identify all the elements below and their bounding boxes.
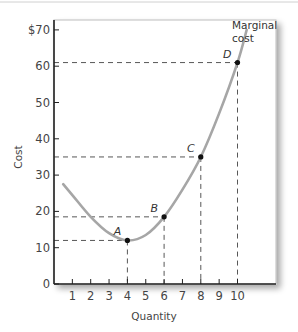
x-tick-label: 8 <box>197 289 204 303</box>
x-tick-label: 5 <box>142 289 149 303</box>
point-label-a: A <box>113 225 122 238</box>
point-a <box>125 238 130 243</box>
x-tick-label: 10 <box>230 289 245 303</box>
y-tick-label: 0 <box>43 277 50 291</box>
x-tick-label: 4 <box>124 289 131 303</box>
point-label-b: B <box>151 202 159 215</box>
y-axis-label: Cost <box>12 145 24 168</box>
point-c <box>198 154 203 159</box>
y-tick-label: 30 <box>35 168 50 182</box>
x-tick-label: 6 <box>160 289 167 303</box>
plot-frame <box>54 20 276 284</box>
y-tick-label: 60 <box>35 59 50 73</box>
y-tick-label: 50 <box>35 96 50 110</box>
y-tick-label: $70 <box>28 23 50 37</box>
y-tick-label: 10 <box>35 241 50 255</box>
y-tick-label: 20 <box>35 204 50 218</box>
point-label-d: D <box>223 48 231 61</box>
point-d <box>235 60 240 65</box>
point-label-c: C <box>187 142 195 155</box>
point-b <box>162 214 167 219</box>
x-axis-label: Quantity <box>131 310 176 322</box>
x-tick-label: 3 <box>105 289 112 303</box>
x-tick-label: 7 <box>179 289 186 303</box>
y-tick-label: 40 <box>35 132 50 146</box>
x-tick-label: 1 <box>69 289 76 303</box>
x-tick-label: 2 <box>87 289 94 303</box>
x-tick-label: 9 <box>215 289 222 303</box>
marginal-cost-chart: ABCD 0102030405060$70 12345678910 Quanti… <box>0 0 298 332</box>
curve-label-line2: cost <box>232 32 254 44</box>
curve-label-line1: Marginal <box>232 19 277 31</box>
